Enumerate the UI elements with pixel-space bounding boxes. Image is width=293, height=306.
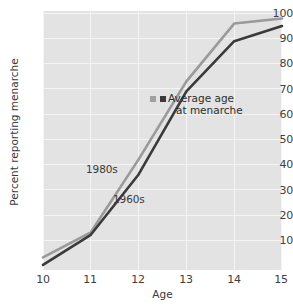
x-tick-14: 14 (221, 274, 247, 285)
y-tick-50: 50 (255, 134, 293, 145)
y-tick-40: 40 (255, 159, 293, 170)
x-tick-13: 13 (173, 274, 199, 285)
series-lines (43, 11, 282, 270)
line-1960s (43, 26, 282, 265)
y-tick-70: 70 (255, 84, 293, 95)
line-1980s (43, 19, 282, 258)
series-label-1960s: 1960s (113, 193, 145, 205)
y-tick-10: 10 (255, 235, 293, 246)
plot-area (43, 11, 282, 270)
annotation-line-2: at menarche (176, 104, 243, 116)
y-axis-title: Percent reporting menarche (8, 57, 20, 207)
x-tick-15: 15 (268, 274, 293, 285)
series-label-1980s: 1980s (86, 163, 118, 175)
x-tick-11: 11 (77, 274, 103, 285)
average-age-annotation: Average age at menarche (168, 92, 243, 116)
x-axis-title: Age (43, 288, 282, 300)
y-tick-100: 100 (255, 8, 293, 19)
x-tick-10: 10 (30, 274, 56, 285)
y-tick-90: 90 (255, 33, 293, 44)
y-tick-30: 30 (255, 185, 293, 196)
y-tick-80: 80 (255, 58, 293, 69)
y-tick-20: 20 (255, 210, 293, 221)
x-tick-12: 12 (125, 274, 151, 285)
menarche-line-chart: 100 90 80 70 60 50 40 30 20 10 10 11 12 … (0, 0, 293, 306)
average-age-marker-1980s (150, 96, 156, 102)
annotation-line-1: Average age (168, 92, 234, 104)
average-age-marker-1960s (160, 96, 166, 102)
y-tick-60: 60 (255, 109, 293, 120)
